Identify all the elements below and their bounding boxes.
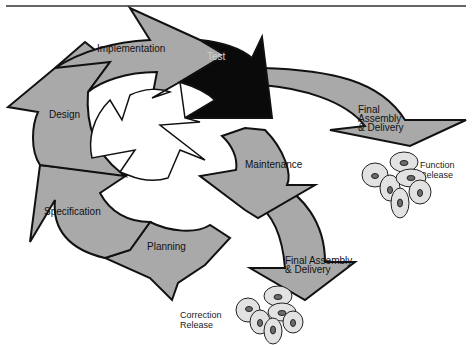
lifecycle-diagram: Implementation Test Maintenance Planning… [0, 0, 475, 345]
stage-label-planning: Planning [147, 241, 186, 252]
cd-disc-stack-icon [236, 286, 303, 344]
stage-label-test: Test [207, 51, 226, 62]
branch-label-function-line3: & Delivery [358, 122, 404, 133]
release-label-function-line1: Function [420, 160, 455, 170]
stage-label-specification: Specification [44, 206, 101, 217]
stage-label-design: Design [49, 109, 80, 120]
branch-label-correction-line2: & Delivery [285, 264, 331, 275]
release-label-correction-line2: Release [180, 320, 213, 330]
release-label-correction-line1: Correction [180, 310, 222, 320]
stage-label-implementation: Implementation [97, 43, 165, 54]
stage-label-maintenance: Maintenance [245, 159, 303, 170]
